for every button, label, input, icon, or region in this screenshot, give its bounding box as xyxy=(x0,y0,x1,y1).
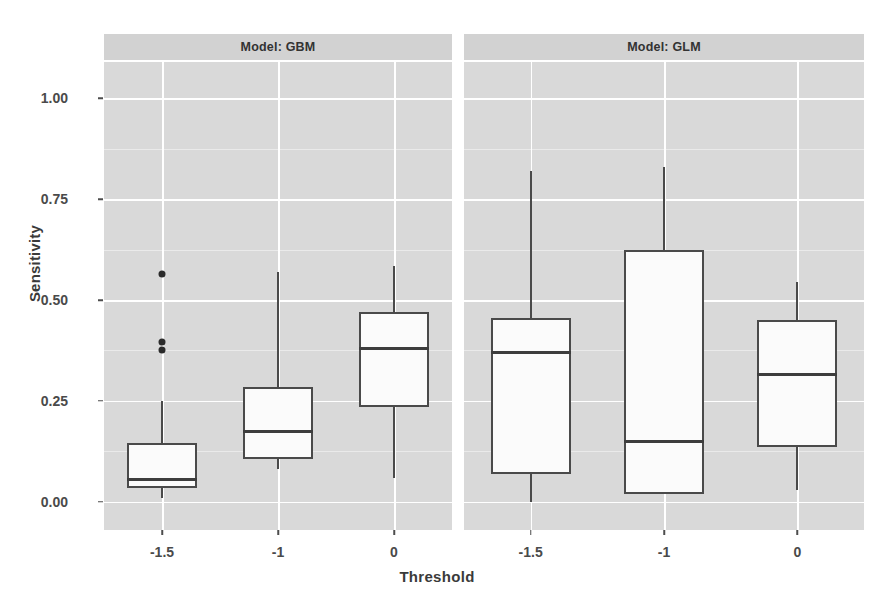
boxplot-median xyxy=(491,351,571,354)
whisker-upper xyxy=(393,266,395,312)
whisker-lower xyxy=(277,459,279,469)
y-tick-mark xyxy=(98,299,103,301)
y-tick-label: 1.00 xyxy=(8,90,68,106)
y-axis-title: Sensitivity xyxy=(26,225,43,302)
panel-strip-label: Model: GLM xyxy=(627,40,701,54)
y-tick-label: 0.25 xyxy=(8,393,68,409)
outlier-point xyxy=(159,339,166,346)
x-tick-mark xyxy=(797,530,799,535)
x-axis-title: Threshold xyxy=(0,568,874,585)
whisker-upper xyxy=(161,401,163,443)
x-tick-label: 0 xyxy=(390,544,398,560)
x-tick-label: -1 xyxy=(272,544,284,560)
whisker-upper xyxy=(663,167,665,250)
y-tick-mark xyxy=(98,98,103,100)
x-tick-mark xyxy=(530,530,532,535)
boxplot-box xyxy=(491,318,571,473)
boxplot-median xyxy=(243,430,313,433)
boxplot-figure: Sensitivity Threshold 0.000.250.500.751.… xyxy=(0,0,874,610)
panel-gbm xyxy=(104,62,452,530)
boxplot-median xyxy=(624,440,704,443)
outlier-point xyxy=(159,347,166,354)
whisker-lower xyxy=(796,447,798,489)
boxplot-box xyxy=(624,250,704,494)
boxplot-median xyxy=(127,478,197,481)
boxplot-median xyxy=(359,347,429,350)
boxplot-box xyxy=(359,312,429,407)
x-tick-mark xyxy=(161,530,163,535)
panel-strip-gbm: Model: GBM xyxy=(104,34,452,60)
boxplot-box xyxy=(243,387,313,460)
outlier-point xyxy=(159,270,166,277)
panel-strip-glm: Model: GLM xyxy=(464,34,864,60)
whisker-upper xyxy=(796,282,798,320)
whisker-upper xyxy=(277,272,279,387)
x-tick-label: 0 xyxy=(793,544,801,560)
y-tick-label: 0.50 xyxy=(8,292,68,308)
x-tick-label: -1.5 xyxy=(519,544,543,560)
whisker-lower xyxy=(530,474,532,502)
x-tick-mark xyxy=(277,530,279,535)
whisker-upper xyxy=(530,171,532,318)
y-tick-mark xyxy=(98,198,103,200)
panel-strip-label: Model: GBM xyxy=(241,40,316,54)
x-tick-mark xyxy=(393,530,395,535)
y-tick-label: 0.75 xyxy=(8,191,68,207)
x-tick-mark xyxy=(663,530,665,535)
x-tick-label: -1 xyxy=(658,544,670,560)
y-tick-label: 0.00 xyxy=(8,494,68,510)
boxplot-box xyxy=(757,320,837,447)
y-tick-mark xyxy=(98,501,103,503)
y-tick-mark xyxy=(98,400,103,402)
x-tick-label: -1.5 xyxy=(150,544,174,560)
whisker-lower xyxy=(161,488,163,498)
boxplot-median xyxy=(757,373,837,376)
panel-glm xyxy=(464,62,864,530)
whisker-lower xyxy=(393,407,395,478)
